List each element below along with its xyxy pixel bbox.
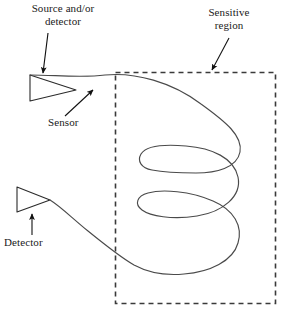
waveguide-sensor-figure: Source and/or detector Sensitive region … [0, 0, 283, 319]
label-source-detector: Source and/or detector [8, 2, 118, 28]
sensitive-region-pointer [212, 38, 229, 70]
sensor-pointer [65, 90, 93, 116]
label-detector: Detector [4, 236, 66, 249]
dashed-boundary-box [116, 73, 276, 304]
source-detector-pointer [43, 33, 48, 73]
label-sensor: Sensor [48, 116, 98, 129]
label-sensitive-region: Sensitive region [183, 6, 275, 32]
upper-coupler-triangle [30, 75, 76, 101]
lower-coupler-triangle [17, 187, 50, 212]
diagram-canvas [0, 0, 283, 319]
